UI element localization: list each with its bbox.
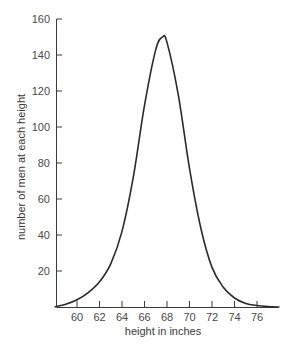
x-tick-label: 74 [228,311,240,323]
distribution-curve [55,36,280,307]
y-tick-label: 60 [38,193,50,205]
y-tick-label: 80 [38,157,50,169]
normal-distribution-chart: 20406080100120140160 606264666870727476 … [0,0,291,357]
y-tick-label: 40 [38,229,50,241]
y-tick-label: 20 [38,265,50,277]
x-tick-label: 62 [93,311,105,323]
y-axis-label: number of men at each height [15,94,27,240]
y-tick-label: 120 [32,85,50,97]
y-tick-label: 160 [32,13,50,25]
x-tick-label: 76 [251,311,263,323]
x-tick-label: 68 [161,311,173,323]
x-tick-label: 70 [183,311,195,323]
x-tick-label: 60 [71,311,83,323]
x-tick-label: 66 [138,311,150,323]
y-tick-label: 140 [32,49,50,61]
y-axis: 20406080100120140160 [32,13,62,307]
x-axis: 606264666870727476 [57,301,279,323]
x-tick-label: 72 [206,311,218,323]
y-tick-label: 100 [32,121,50,133]
x-tick-label: 64 [116,311,128,323]
x-axis-label: height in inches [125,325,202,337]
